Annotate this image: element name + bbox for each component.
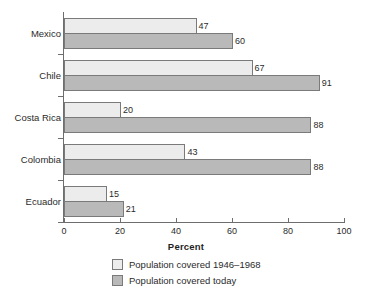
bar-mexico-series-2 — [64, 33, 233, 49]
chart-legend: Population covered 1946–1968 Population … — [0, 256, 372, 288]
x-axis-tick-label: 80 — [283, 226, 293, 237]
category-label-ecuador: Ecuador — [26, 196, 61, 207]
x-axis-tick — [64, 218, 65, 223]
bar-chart: 020406080100 MexicoChileCosta RicaColomb… — [0, 0, 372, 293]
legend-item-today: Population covered today — [0, 272, 372, 288]
bar-costa-rica-series-1 — [64, 102, 121, 118]
bar-value-label: 15 — [109, 189, 119, 199]
legend-label: Population covered today — [129, 275, 236, 286]
category-label-colombia: Colombia — [21, 154, 61, 165]
y-axis-tick — [58, 54, 63, 55]
x-axis-line — [63, 222, 345, 223]
x-axis-tick-label: 0 — [61, 226, 66, 237]
bar-value-label: 88 — [313, 120, 323, 130]
bar-ecuador-series-1 — [64, 186, 107, 202]
bar-value-label: 21 — [126, 204, 136, 214]
light-gray-swatch-icon — [112, 259, 123, 270]
category-label-chile: Chile — [39, 70, 61, 81]
y-axis-tick — [58, 96, 63, 97]
x-axis-tick — [232, 218, 233, 223]
bar-chile-series-1 — [64, 60, 253, 76]
bar-costa-rica-series-2 — [64, 117, 311, 133]
x-axis-tick-label: 100 — [336, 226, 351, 237]
bar-value-label: 60 — [235, 36, 245, 46]
y-axis-tick — [58, 222, 63, 223]
bar-ecuador-series-2 — [64, 201, 124, 217]
bar-value-label: 88 — [313, 162, 323, 172]
category-label-mexico: Mexico — [31, 28, 61, 39]
bar-value-label: 91 — [322, 78, 332, 88]
bar-value-label: 67 — [255, 63, 265, 73]
x-axis-tick — [288, 218, 289, 223]
x-axis-tick — [344, 218, 345, 223]
category-label-costa-rica: Costa Rica — [15, 112, 61, 123]
bar-chile-series-2 — [64, 75, 320, 91]
x-axis-tick-label: 60 — [227, 226, 237, 237]
medium-gray-swatch-icon — [112, 275, 123, 286]
x-axis-tick — [120, 218, 121, 223]
bar-mexico-series-1 — [64, 18, 197, 34]
y-axis-tick — [58, 180, 63, 181]
bar-colombia-series-1 — [64, 144, 185, 160]
bar-value-label: 43 — [187, 147, 197, 157]
x-axis-tick-label: 40 — [171, 226, 181, 237]
bar-value-label: 20 — [123, 105, 133, 115]
legend-item-1946-1968: Population covered 1946–1968 — [0, 256, 372, 272]
bar-value-label: 47 — [199, 21, 209, 31]
x-axis-title: Percent — [0, 241, 372, 252]
legend-label: Population covered 1946–1968 — [129, 259, 261, 270]
bar-colombia-series-2 — [64, 159, 311, 175]
x-axis-tick — [176, 218, 177, 223]
x-axis-tick-label: 20 — [115, 226, 125, 237]
y-axis-tick — [58, 138, 63, 139]
